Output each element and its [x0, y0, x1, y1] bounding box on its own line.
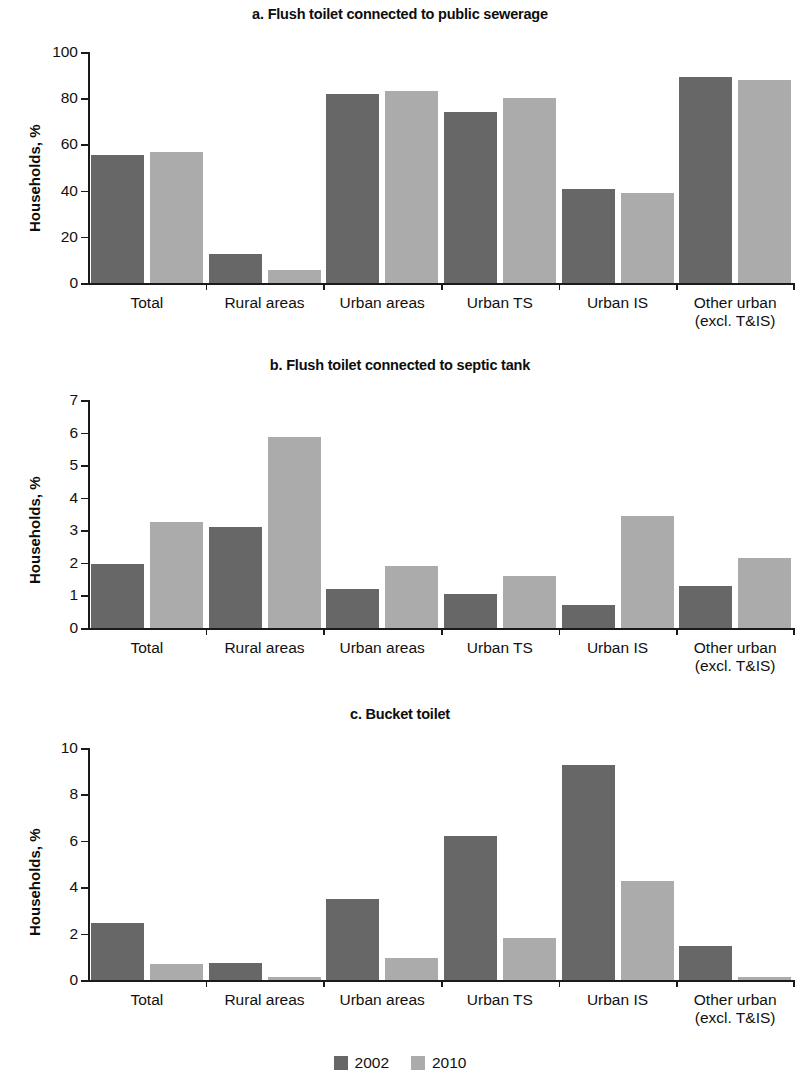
x-axis-group-divider: [206, 628, 208, 635]
bar-2002-rural-areas: [209, 527, 262, 628]
y-tick-mark: [81, 595, 89, 597]
bar-2002-other-urban: [679, 77, 732, 283]
x-tick-label-line2: (excl. T&IS): [664, 1009, 800, 1027]
plot-area-b: 01234567Households, %TotalRural areasUrb…: [0, 352, 800, 700]
y-tick-mark: [81, 144, 89, 146]
bar-2010-urban-is: [621, 881, 674, 980]
x-tick-label-line1: Other urban: [664, 639, 800, 657]
y-tick-label: 100: [36, 44, 78, 60]
legend-label-2002: 2002: [355, 1054, 389, 1072]
y-axis-line: [88, 52, 90, 284]
legend-swatch-2002: [334, 1056, 348, 1070]
y-tick-label: 0: [36, 275, 78, 291]
bar-2010-other-urban: [738, 558, 791, 628]
x-tick-label: Other urban(excl. T&IS): [664, 639, 800, 675]
y-axis-label: Households, %: [26, 476, 43, 584]
x-axis-end-cap: [793, 980, 795, 987]
bar-2010-other-urban: [738, 80, 791, 283]
bar-2002-other-urban: [679, 946, 732, 980]
bar-2010-total: [150, 964, 203, 980]
bar-2002-urban-ts: [444, 594, 497, 628]
x-axis-group-divider: [559, 628, 561, 635]
y-tick-mark: [81, 98, 89, 100]
bar-2010-urban-ts: [503, 938, 556, 980]
x-axis-group-divider: [441, 283, 443, 290]
bar-2002-other-urban: [679, 586, 732, 628]
bar-2002-rural-areas: [209, 254, 262, 283]
y-tick-mark: [81, 52, 89, 54]
y-tick-mark: [81, 400, 89, 402]
bar-2010-urban-ts: [503, 98, 556, 283]
y-tick-mark: [81, 563, 89, 565]
bar-2002-total: [91, 564, 144, 628]
bar-2002-urban-areas: [326, 94, 379, 283]
y-tick-mark: [81, 748, 89, 750]
x-axis-group-divider: [323, 980, 325, 987]
y-tick-mark: [81, 887, 89, 889]
x-axis-group-divider: [206, 980, 208, 987]
y-axis-line: [88, 748, 90, 981]
plot-area-c: 0246810Households, %TotalRural areasUrba…: [0, 702, 800, 1050]
bar-2010-total: [150, 152, 203, 283]
y-tick-label: 0: [36, 620, 78, 636]
bar-2010-urban-areas: [385, 566, 438, 628]
legend-item-2002: 2002: [334, 1054, 389, 1072]
bar-2002-urban-is: [562, 605, 615, 628]
y-tick-mark: [81, 530, 89, 532]
y-tick-mark: [81, 628, 89, 630]
y-tick-mark: [81, 237, 89, 239]
x-axis-group-divider: [206, 283, 208, 290]
chart-legend: 2002 2010: [0, 1054, 800, 1072]
bar-2010-urban-areas: [385, 958, 438, 980]
legend-label-2010: 2010: [432, 1054, 466, 1072]
y-tick-label: 7: [36, 392, 78, 408]
bar-2010-urban-areas: [385, 91, 438, 283]
bar-2002-rural-areas: [209, 963, 262, 980]
chart-panel-c: c. Bucket toilet 0246810Households, %Tot…: [0, 702, 800, 1050]
bar-2010-rural-areas: [268, 270, 321, 283]
chart-panel-b: b. Flush toilet connected to septic tank…: [0, 352, 800, 700]
x-axis-group-divider: [676, 628, 678, 635]
bar-2002-urban-areas: [326, 589, 379, 628]
x-axis-group-divider: [323, 283, 325, 290]
y-tick-mark: [81, 934, 89, 936]
bar-2002-urban-areas: [326, 899, 379, 980]
bar-2010-rural-areas: [268, 977, 321, 980]
x-tick-label-line1: Other urban: [664, 294, 800, 312]
y-axis-label: Households, %: [26, 124, 43, 232]
x-axis-group-divider: [441, 628, 443, 635]
y-tick-label: 0: [36, 972, 78, 988]
x-axis-group-divider: [559, 980, 561, 987]
bar-2002-total: [91, 923, 144, 980]
bar-2010-other-urban: [738, 977, 791, 980]
x-axis-group-divider: [323, 628, 325, 635]
y-tick-label: 8: [36, 786, 78, 802]
y-tick-mark: [81, 980, 89, 982]
bar-2002-urban-is: [562, 765, 615, 980]
bar-2010-rural-areas: [268, 437, 321, 628]
y-tick-mark: [81, 841, 89, 843]
y-tick-label: 1: [36, 587, 78, 603]
x-tick-label-line2: (excl. T&IS): [664, 312, 800, 330]
x-tick-label-line1: Other urban: [664, 991, 800, 1009]
x-axis-end-cap: [793, 283, 795, 290]
bar-2002-total: [91, 155, 144, 283]
bar-2002-urban-ts: [444, 112, 497, 283]
x-tick-label-line2: (excl. T&IS): [664, 657, 800, 675]
y-tick-label: 10: [36, 740, 78, 756]
bar-2010-urban-ts: [503, 576, 556, 628]
y-tick-mark: [81, 498, 89, 500]
bar-2010-urban-is: [621, 193, 674, 283]
y-tick-label: 6: [36, 425, 78, 441]
x-axis-group-divider: [559, 283, 561, 290]
figure-root: a. Flush toilet connected to public sewe…: [0, 0, 800, 1084]
y-tick-label: 5: [36, 457, 78, 473]
bar-2002-urban-ts: [444, 836, 497, 980]
chart-panel-a: a. Flush toilet connected to public sewe…: [0, 0, 800, 348]
legend-swatch-2010: [411, 1056, 425, 1070]
y-tick-mark: [81, 465, 89, 467]
bar-2002-urban-is: [562, 189, 615, 283]
x-tick-label: Other urban(excl. T&IS): [664, 991, 800, 1027]
bar-2010-total: [150, 522, 203, 628]
legend-item-2010: 2010: [411, 1054, 466, 1072]
